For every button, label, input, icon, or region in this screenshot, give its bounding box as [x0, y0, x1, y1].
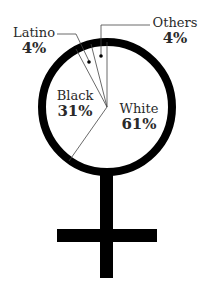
label-others-name: Others — [150, 16, 200, 30]
label-black-value: 31% — [52, 103, 98, 120]
label-latino-name: Latino — [10, 26, 58, 40]
label-others: Others 4% — [150, 16, 200, 47]
label-black: Black 31% — [52, 89, 98, 120]
venus-crossbar — [57, 229, 157, 242]
label-black-name: Black — [52, 89, 98, 103]
others-leader-dot — [99, 54, 103, 58]
label-latino: Latino 4% — [10, 26, 58, 57]
label-white: White 61% — [116, 102, 162, 133]
label-white-value: 61% — [116, 116, 162, 133]
label-latino-value: 4% — [10, 40, 58, 57]
latino-leader-dot — [87, 60, 91, 64]
label-others-value: 4% — [150, 30, 200, 47]
label-white-name: White — [116, 102, 162, 116]
venus-stem — [100, 175, 113, 278]
